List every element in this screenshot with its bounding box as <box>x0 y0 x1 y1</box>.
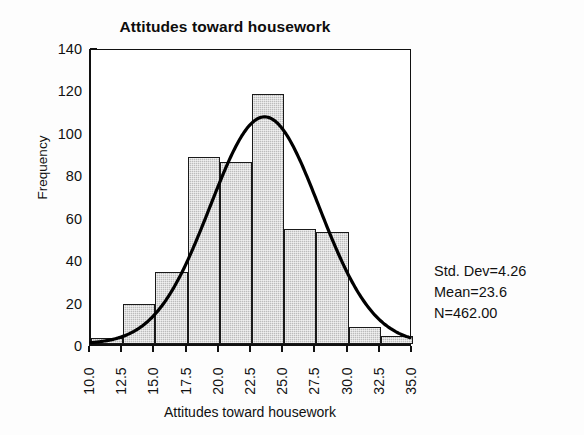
histogram-bar <box>381 336 413 344</box>
x-tick-label: 25.0 <box>275 358 289 404</box>
y-tick-label: 40 <box>38 254 82 268</box>
histogram-bar <box>91 338 123 344</box>
x-tick-label: 17.5 <box>179 358 193 404</box>
mean-text: Mean=23.6 <box>434 282 526 303</box>
histogram-bar <box>155 272 187 344</box>
x-tick-label: 30.0 <box>340 358 354 404</box>
x-tick-label: 10.0 <box>82 358 96 404</box>
x-axis-tick-labels: 10.012.515.017.520.022.525.027.530.032.5… <box>89 352 411 408</box>
y-tick-label: 80 <box>38 169 82 183</box>
histogram-bar <box>123 304 155 344</box>
x-axis-title: Attitudes toward housework <box>89 404 411 420</box>
histogram-bar <box>188 157 220 344</box>
plot-area <box>89 49 411 346</box>
y-tick-label: 100 <box>38 127 82 141</box>
plot-inner <box>91 50 410 344</box>
histogram-bar <box>252 94 284 344</box>
y-tick-label: 140 <box>38 42 82 56</box>
x-tick-label: 22.5 <box>243 358 257 404</box>
histogram-bar <box>284 229 316 344</box>
histogram-figure: Attitudes toward housework Frequency 020… <box>0 0 584 435</box>
y-tick-label: 120 <box>38 84 82 98</box>
histogram-bar <box>349 327 381 344</box>
y-axis-tick-labels: 020406080100120140 <box>38 0 82 435</box>
y-tick-label: 20 <box>38 297 82 311</box>
x-tick-label: 12.5 <box>114 358 128 404</box>
n-text: N=462.00 <box>434 303 526 324</box>
histogram-bar <box>220 162 252 344</box>
y-tick-label: 0 <box>38 339 82 353</box>
y-tick-label: 60 <box>38 212 82 226</box>
x-tick-label: 35.0 <box>404 358 418 404</box>
std-dev-text: Std. Dev=4.26 <box>434 261 526 282</box>
statistics-annotation: Std. Dev=4.26 Mean=23.6 N=462.00 <box>434 261 526 324</box>
x-tick-label: 27.5 <box>307 358 321 404</box>
chart-title: Attitudes toward housework <box>60 18 390 36</box>
x-tick-label: 32.5 <box>372 358 386 404</box>
histogram-bar <box>316 232 348 344</box>
x-tick-label: 20.0 <box>211 358 225 404</box>
x-tick-label: 15.0 <box>146 358 160 404</box>
